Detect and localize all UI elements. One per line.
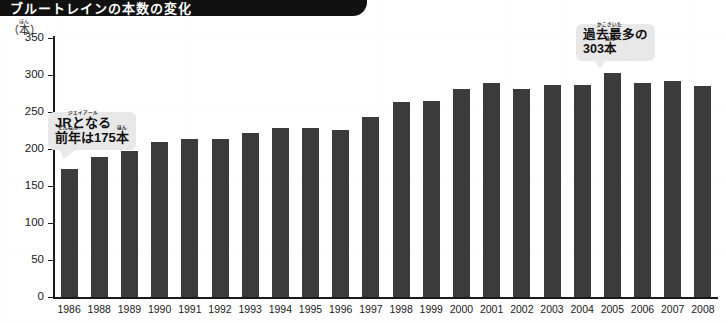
annotation-right-unit: 本 <box>604 42 617 56</box>
bar-fill <box>694 86 711 297</box>
bar-2004 <box>574 38 591 297</box>
bar-fill <box>544 85 561 297</box>
annotation-left-furigana: ジェイアール <box>55 110 111 115</box>
bar-fill <box>574 85 591 297</box>
x-axis-line <box>54 297 718 299</box>
bar-fill <box>272 128 289 297</box>
annotation-right-reading: かこさいた <box>583 22 635 27</box>
y-tick-label-100: 100 <box>0 217 44 228</box>
annotation-left-unit: 本 <box>116 130 129 145</box>
bar-fill <box>242 133 259 297</box>
bar-series <box>54 38 718 297</box>
annotation-callout-1986: ジェイアールJRとなる ぜんねん前年は175ほん本 <box>48 112 136 150</box>
y-tick-label-50: 50 <box>0 254 44 265</box>
bar-1986 <box>61 38 78 297</box>
bar-fill <box>362 117 379 297</box>
bar-fill <box>513 89 530 297</box>
bar-1990 <box>151 38 168 297</box>
title-banner: ブルートレインの本数の変化 <box>0 0 367 16</box>
x-tick-label-2008: 2008 <box>683 303 723 315</box>
bar-1999 <box>423 38 440 297</box>
annotation-left-ruby-reading: ぜんねん <box>55 125 81 130</box>
bar-1993 <box>242 38 259 297</box>
bar-2008 <box>694 38 711 297</box>
bar-1989 <box>121 38 138 297</box>
bar-fill <box>664 81 681 297</box>
bar-fill <box>61 169 78 297</box>
bar-fill <box>181 139 198 297</box>
bar-2005 <box>604 38 621 297</box>
bar-fill <box>483 83 500 297</box>
bar-1994 <box>272 38 289 297</box>
x-axis-labels: 1986198819891990199119921993199419951996… <box>54 303 718 319</box>
bar-fill <box>212 139 229 297</box>
bar-1996 <box>332 38 349 297</box>
y-tick-label-300: 300 <box>0 69 44 80</box>
y-tick-label-200: 200 <box>0 143 44 154</box>
annotation-left-value: は175 <box>81 130 116 145</box>
bar-1992 <box>212 38 229 297</box>
page-title: ブルートレインの本数の変化 <box>10 2 192 15</box>
annotation-right-particle: の <box>635 28 648 42</box>
bar-fill <box>604 73 621 297</box>
bar-fill <box>302 128 319 297</box>
bar-2006 <box>634 38 651 297</box>
bar-2000 <box>453 38 470 297</box>
bar-fill <box>393 102 410 297</box>
bar-fill <box>453 89 470 297</box>
chart-page: ブルートレインの本数の変化 ほん （本） 0501001502002503003… <box>0 0 726 323</box>
bar-fill <box>151 142 168 297</box>
annotation-left-tail <box>57 149 76 159</box>
bar-2002 <box>513 38 530 297</box>
bar-1995 <box>302 38 319 297</box>
y-tick-label-150: 150 <box>0 180 44 191</box>
bar-2007 <box>664 38 681 297</box>
bar-fill <box>634 83 651 297</box>
bar-2001 <box>483 38 500 297</box>
bar-1988 <box>91 38 108 297</box>
bar-1991 <box>181 38 198 297</box>
annotation-right-line2: 303ほん本 <box>583 42 648 56</box>
annotation-right-value: 303 <box>583 42 604 56</box>
annotation-right-unit-reading: ほん <box>604 36 617 41</box>
annotation-left-ruby-kanji: 前年 <box>55 130 81 145</box>
annotation-right-tail <box>594 60 606 69</box>
bar-2003 <box>544 38 561 297</box>
y-tick-label-350: 350 <box>0 32 44 43</box>
bar-fill <box>121 151 138 297</box>
annotation-left-line2: ぜんねん前年は175ほん本 <box>55 131 129 146</box>
annotation-left-unit-reading: ほん <box>116 125 129 130</box>
bar-1997 <box>362 38 379 297</box>
annotation-callout-2005: かこさいた過去最多の 303ほん本 <box>576 24 655 61</box>
bar-fill <box>423 101 440 297</box>
bar-1998 <box>393 38 410 297</box>
bar-fill <box>91 157 108 297</box>
y-tick-label-0: 0 <box>0 291 44 302</box>
bar-fill <box>332 130 349 297</box>
y-tick-label-250: 250 <box>0 106 44 117</box>
